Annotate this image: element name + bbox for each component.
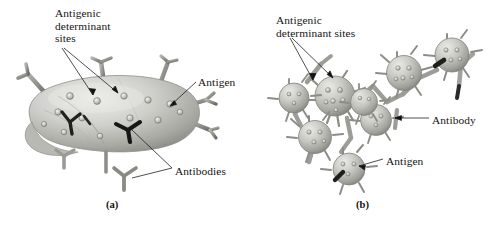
- antigen-sphere: [321, 145, 377, 194]
- panel-a: Antigenic determinant sites Antigen Anti…: [0, 0, 247, 225]
- label-antibodies: Antibodies: [175, 165, 226, 178]
- label-antigen: Antigen: [386, 155, 423, 168]
- label-antigen: Antigen: [198, 76, 235, 89]
- caption-panel-a: (a): [106, 199, 118, 210]
- label-antigenic-determinant-sites: Antigenic determinant sites: [276, 14, 355, 39]
- caption-panel-b: (b): [356, 199, 369, 210]
- antigen-sphere: [376, 46, 432, 98]
- label-antibody: Antibody: [432, 114, 476, 127]
- panel-b: Antigenic determinant sites Antibody Ant…: [247, 0, 493, 225]
- antigen-body: [25, 75, 199, 155]
- antigen-spheres: [268, 30, 482, 194]
- antigen-antibody-figure: Antigenic determinant sites Antigen Anti…: [0, 0, 493, 225]
- panel-a-artwork: [0, 0, 247, 225]
- label-antigenic-determinant-sites: Antigenic determinant sites: [55, 7, 111, 45]
